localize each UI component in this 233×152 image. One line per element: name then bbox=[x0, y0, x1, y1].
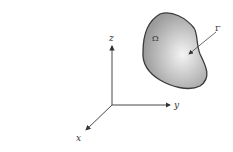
domain-label: Ω bbox=[152, 34, 159, 43]
boundary-label: Γ bbox=[215, 24, 221, 33]
y-axis-label: y bbox=[173, 100, 180, 110]
x-axis-label: x bbox=[76, 133, 81, 143]
x-axis bbox=[86, 105, 112, 130]
domain-diagram: z y x Ω Γ bbox=[0, 0, 233, 152]
z-axis-label: z bbox=[108, 33, 114, 43]
domain-region bbox=[143, 13, 207, 89]
